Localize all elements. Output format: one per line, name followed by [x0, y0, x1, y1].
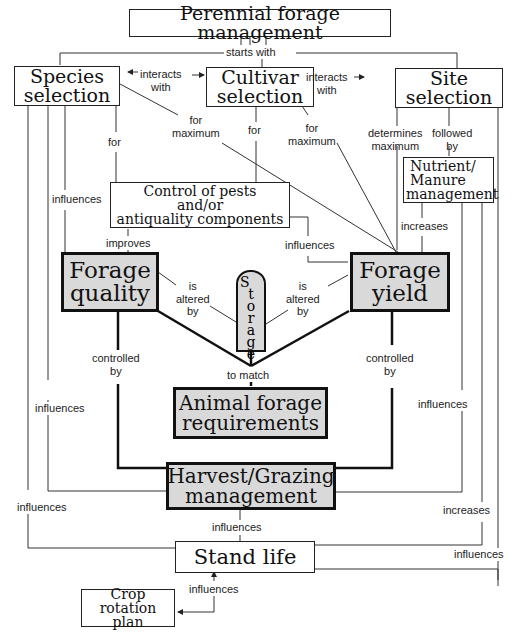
node-text: Animal forage	[179, 393, 322, 413]
edge-label-line: is	[286, 280, 320, 293]
storage-node: S t o r a g e	[236, 270, 266, 352]
stand-life-node: Stand life	[175, 541, 315, 573]
edge-label-line: by	[92, 365, 140, 378]
node-text: Forage	[359, 259, 441, 282]
edge-label-line: maximum	[172, 127, 220, 140]
edge-label: interacts with	[140, 68, 182, 93]
node-text: selection	[24, 86, 110, 105]
edge-label: influences	[35, 402, 85, 415]
edge-label-line: controlled	[92, 352, 140, 365]
node-text: management	[406, 187, 498, 201]
cultivar-selection-node: Cultivar selection	[206, 67, 314, 107]
edge-label-line: followed	[432, 127, 472, 140]
node-text: Manure	[410, 173, 466, 187]
edge-label: increases	[401, 220, 448, 233]
edge-label: increases	[443, 504, 490, 517]
site-selection-node: Site selection	[395, 68, 503, 108]
edge-label-line: by	[366, 365, 414, 378]
edge-label: influences	[52, 193, 102, 206]
title-node: Perennial forage management	[129, 9, 391, 37]
edge-label: influences	[418, 398, 468, 411]
crop-rotation-node: Crop rotation plan	[81, 589, 175, 627]
forage-quality-node: Forage quality	[61, 252, 159, 312]
animal-forage-requirements-node: Animal forage requirements	[173, 387, 328, 439]
edge-label-line: with	[140, 81, 182, 94]
node-text: selection	[217, 87, 303, 106]
edge-label: to match	[227, 369, 269, 382]
edge-label: for maximum	[288, 122, 336, 147]
node-text: yield	[372, 282, 428, 305]
edge-label: improves	[106, 237, 151, 250]
edge-label-line: determines	[368, 127, 422, 140]
node-text: Control of pests	[143, 184, 256, 198]
node-text: and/or	[177, 198, 223, 212]
edge-label: followed by	[432, 127, 472, 152]
edge-label: is altered by	[176, 280, 210, 318]
edge-label: influences	[189, 583, 239, 596]
edge-label: for maximum	[172, 114, 220, 139]
edge-label: starts with	[226, 46, 276, 59]
node-text: antiquality components	[117, 212, 284, 226]
edge-label: influences	[285, 239, 335, 252]
edge-label-line: with	[306, 84, 348, 97]
node-text: requirements	[182, 413, 319, 433]
edge-label-line: interacts	[140, 68, 182, 81]
edge-label: determines maximum	[368, 127, 422, 152]
species-selection-node: Species selection	[14, 66, 120, 106]
node-text: Nutrient/	[410, 159, 476, 173]
edge-label-line: altered	[176, 293, 210, 306]
node-text: Stand life	[194, 547, 297, 568]
node-text: Harvest/Grazing	[167, 466, 334, 486]
edge-label-line: maximum	[368, 140, 422, 153]
edge-label-line: for	[172, 114, 220, 127]
edge-label-line: by	[176, 305, 210, 318]
edge-label-line: controlled	[366, 352, 414, 365]
edge-label: influences	[212, 521, 262, 534]
pest-control-node: Control of pests and/or antiquality comp…	[110, 182, 290, 228]
node-text: management	[185, 486, 317, 506]
edge-label: controlled by	[366, 352, 414, 377]
node-text: Forage	[69, 259, 151, 282]
edge-label-line: by	[286, 305, 320, 318]
node-text: e	[247, 348, 255, 360]
harvest-grazing-node: Harvest/Grazing management	[166, 462, 336, 510]
node-text: Crop rotation	[82, 587, 174, 615]
edge-label-line: is	[176, 280, 210, 293]
edge-label: influences	[454, 548, 504, 561]
node-text: selection	[406, 88, 492, 107]
edge-label-line: altered	[286, 293, 320, 306]
edge-label: for	[108, 136, 121, 149]
edge-label-line: for	[288, 122, 336, 135]
edge-label: influences	[17, 501, 67, 514]
edge-label: controlled by	[92, 352, 140, 377]
diagram-canvas: Perennial forage management Species sele…	[0, 0, 520, 636]
forage-yield-node: Forage yield	[350, 252, 450, 312]
edge-label-line: interacts	[306, 71, 348, 84]
node-text: plan	[113, 615, 144, 629]
edge-label: interacts with	[306, 71, 348, 96]
node-text: quality	[70, 282, 150, 305]
edge-label: for	[248, 124, 261, 137]
nutrient-manure-node: Nutrient/ Manure management	[403, 157, 494, 203]
edge-label-line: by	[432, 140, 472, 153]
edge-label: is altered by	[286, 280, 320, 318]
title-label: Perennial forage management	[130, 4, 390, 42]
edge-label-line: maximum	[288, 135, 336, 148]
